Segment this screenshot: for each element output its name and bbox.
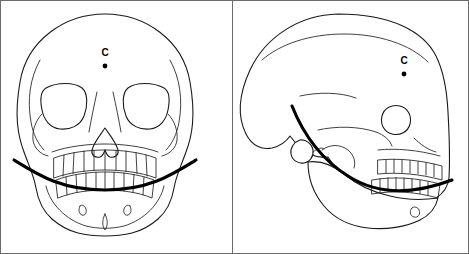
- condyle-center-label-frontal: C: [101, 47, 108, 58]
- left-orbit: [41, 84, 87, 130]
- skull-lateral-view: C: [240, 14, 452, 229]
- lateral-orbit: [381, 105, 410, 134]
- condyle-center-point-lateral: [402, 72, 407, 77]
- condyle-center-label-lateral: C: [400, 55, 407, 66]
- skull-frontal-view: C: [14, 14, 196, 236]
- right-orbit: [123, 84, 169, 130]
- condyle-center-point-frontal: [103, 64, 108, 69]
- figure-canvas: C: [0, 0, 469, 254]
- mandibular-condyle: [291, 140, 313, 163]
